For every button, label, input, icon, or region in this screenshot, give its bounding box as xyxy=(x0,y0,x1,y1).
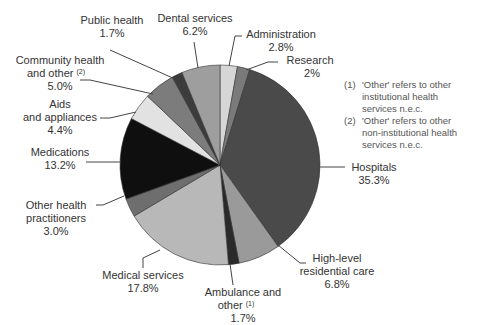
svg-text:non-institutional health: non-institutional health xyxy=(362,127,457,138)
svg-text:and other (2): and other (2) xyxy=(27,67,85,79)
svg-text:35.3%: 35.3% xyxy=(358,174,389,186)
svg-text:services n.e.c.: services n.e.c. xyxy=(362,139,423,150)
svg-text:Hospitals: Hospitals xyxy=(351,161,397,173)
svg-text:2%: 2% xyxy=(304,67,320,79)
label-research: Research 2% xyxy=(286,54,333,79)
svg-text:1.7%: 1.7% xyxy=(99,27,124,39)
svg-text:services n.e.c.: services n.e.c. xyxy=(362,103,423,114)
svg-text:Public health: Public health xyxy=(81,14,144,26)
label-aids-and-appliances: Aids and appliances 4.4% xyxy=(23,98,98,136)
svg-text:17.8%: 17.8% xyxy=(127,282,158,294)
label-medications: Medications 13.2% xyxy=(31,146,90,171)
svg-text:6.8%: 6.8% xyxy=(324,278,349,290)
label-dental-services: Dental services 6.2% xyxy=(157,12,233,37)
svg-text:'Other' refers to other: 'Other' refers to other xyxy=(362,79,451,90)
label-community-health: Community health and other (2) 5.0% xyxy=(16,54,105,92)
svg-text:Community health: Community health xyxy=(16,54,105,66)
svg-text:Medical services: Medical services xyxy=(102,269,184,281)
label-public-health: Public health 1.7% xyxy=(81,14,144,39)
footnotes: (1) 'Other' refers to other institutiona… xyxy=(344,79,457,150)
svg-text:institutional health: institutional health xyxy=(362,91,438,102)
label-ambulance-and-other: Ambulance and other (1) 1.7% xyxy=(205,286,281,324)
svg-text:1.7%: 1.7% xyxy=(230,312,255,324)
leader-administration xyxy=(229,36,242,66)
pie-slices xyxy=(120,65,320,265)
svg-text:4.4%: 4.4% xyxy=(47,124,72,136)
svg-text:3.0%: 3.0% xyxy=(43,225,68,237)
svg-text:6.2%: 6.2% xyxy=(182,25,207,37)
svg-text:Medications: Medications xyxy=(31,146,90,158)
pie-chart: Administration 2.8% Research 2% Hospital… xyxy=(0,0,478,325)
label-medical-services: Medical services 17.8% xyxy=(102,269,184,294)
label-administration: Administration 2.8% xyxy=(246,28,316,53)
label-hospitals: Hospitals 35.3% xyxy=(351,161,397,186)
svg-text:13.2%: 13.2% xyxy=(44,159,75,171)
svg-text:practitioners: practitioners xyxy=(26,212,86,224)
svg-text:5.0%: 5.0% xyxy=(47,80,72,92)
svg-text:'Other' refers to other: 'Other' refers to other xyxy=(362,115,451,126)
label-other-health-practitioners: Other health practitioners 3.0% xyxy=(26,199,87,237)
svg-text:other (1): other (1) xyxy=(218,299,255,311)
svg-text:Aids: Aids xyxy=(49,98,71,110)
svg-text:Other health: Other health xyxy=(26,199,87,211)
svg-text:Research: Research xyxy=(286,54,333,66)
svg-text:2.8%: 2.8% xyxy=(268,41,293,53)
svg-text:Ambulance and: Ambulance and xyxy=(205,286,281,298)
svg-text:Administration: Administration xyxy=(246,28,316,40)
label-high-level-residential-care: High-level residential care 6.8% xyxy=(300,252,375,290)
svg-text:(1): (1) xyxy=(344,79,356,90)
svg-text:High-level: High-level xyxy=(313,252,362,264)
svg-text:and appliances: and appliances xyxy=(23,111,98,123)
svg-text:residential care: residential care xyxy=(300,265,375,277)
svg-text:Dental services: Dental services xyxy=(157,12,233,24)
svg-text:(2): (2) xyxy=(344,115,356,126)
